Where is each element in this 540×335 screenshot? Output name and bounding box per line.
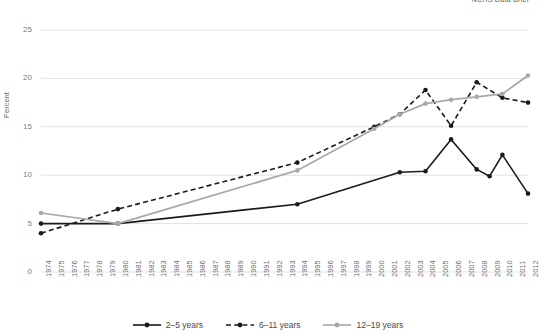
data-point-marker bbox=[39, 231, 44, 236]
legend-line-swatch-icon bbox=[132, 320, 162, 330]
data-point-marker bbox=[526, 100, 531, 105]
legend-item-label: 6–11 years bbox=[259, 320, 300, 330]
x-axis-tick-label: 1974 bbox=[44, 260, 53, 277]
x-axis-tick-label: 1992 bbox=[275, 260, 284, 277]
x-axis-tick-label: 2002 bbox=[403, 260, 412, 277]
data-point-marker bbox=[423, 101, 428, 106]
x-axis-tick-label: 1986 bbox=[198, 260, 207, 277]
data-point-marker bbox=[39, 211, 44, 216]
x-axis-tick-label: 1995 bbox=[313, 260, 322, 277]
series-line bbox=[41, 76, 528, 224]
x-axis-tick-label: 1988 bbox=[223, 260, 232, 277]
x-axis-tick-label: 1976 bbox=[70, 260, 79, 277]
x-axis-tick-label: 1998 bbox=[352, 260, 361, 277]
data-point-marker bbox=[449, 137, 454, 142]
x-axis-tick-label: 1999 bbox=[364, 260, 373, 277]
data-point-marker bbox=[423, 88, 428, 93]
data-point-marker bbox=[500, 92, 505, 97]
data-point-marker bbox=[398, 112, 403, 117]
data-point-marker bbox=[295, 160, 300, 165]
x-axis-tick-label: 1978 bbox=[95, 260, 104, 277]
x-axis-tick-label: 1989 bbox=[236, 260, 245, 277]
x-axis-tick-label: 1991 bbox=[262, 260, 271, 277]
x-axis-tick-label: 1981 bbox=[134, 260, 143, 277]
x-axis-tick-label: 2000 bbox=[377, 260, 386, 277]
data-point-marker bbox=[423, 169, 428, 174]
legend-line-swatch-icon bbox=[322, 320, 352, 330]
x-axis-tick-label: 1994 bbox=[300, 260, 309, 277]
x-axis-tick-label: 1982 bbox=[147, 260, 156, 277]
data-point-marker bbox=[116, 207, 121, 212]
x-axis-tick-label: 1997 bbox=[339, 260, 348, 277]
data-point-marker bbox=[295, 202, 300, 207]
x-axis-tick-label: 2005 bbox=[441, 260, 450, 277]
x-axis-tick-label: 2006 bbox=[454, 260, 463, 277]
data-point-marker bbox=[116, 221, 121, 226]
data-point-marker bbox=[398, 170, 403, 175]
legend-item[interactable]: 2–5 years bbox=[132, 320, 203, 330]
x-axis-tick-label: 2001 bbox=[390, 260, 399, 277]
data-point-marker bbox=[487, 174, 492, 179]
chart-legend: 2–5 years6–11 years12–19 years bbox=[0, 320, 535, 330]
x-axis-tick-label: 1975 bbox=[57, 260, 66, 277]
x-axis-tick-label: 2010 bbox=[505, 260, 514, 277]
x-axis-tick-label: 2003 bbox=[416, 260, 425, 277]
data-point-marker bbox=[449, 97, 454, 102]
data-point-marker bbox=[474, 80, 479, 85]
x-axis-tick-label: 2011 bbox=[518, 261, 527, 277]
x-axis-tick-label: 2008 bbox=[480, 260, 489, 277]
data-point-marker bbox=[526, 73, 531, 78]
data-point-marker bbox=[449, 124, 454, 129]
x-axis-tick-label: 1996 bbox=[326, 260, 335, 277]
x-axis-tick-label: 1983 bbox=[159, 260, 168, 277]
x-axis-tick-label: 1977 bbox=[82, 260, 91, 277]
data-point-marker bbox=[474, 95, 479, 100]
x-axis-tick-label: 1985 bbox=[185, 260, 194, 277]
x-axis-tick-label: 2012 bbox=[531, 260, 540, 277]
legend-item[interactable]: 12–19 years bbox=[322, 320, 403, 330]
x-axis-tick-label: 1993 bbox=[288, 260, 297, 277]
data-point-marker bbox=[295, 168, 300, 173]
data-point-marker bbox=[474, 167, 479, 172]
series-line bbox=[41, 82, 528, 233]
legend-item-label: 12–19 years bbox=[356, 320, 403, 330]
data-point-marker bbox=[500, 153, 505, 158]
data-point-marker bbox=[39, 221, 44, 226]
x-axis-tick-label: 1980 bbox=[121, 260, 130, 277]
legend-item[interactable]: 6–11 years bbox=[225, 320, 300, 330]
x-axis-tick-label: 1984 bbox=[172, 260, 181, 277]
data-point-marker bbox=[372, 126, 377, 131]
x-axis-tick-label: 2009 bbox=[493, 260, 502, 277]
x-axis-tick-label: 1987 bbox=[211, 260, 220, 277]
x-axis-tick-label: 1990 bbox=[249, 260, 258, 277]
x-axis-tick-label: 2004 bbox=[428, 260, 437, 277]
x-axis-tick-label: 1979 bbox=[108, 260, 117, 277]
legend-item-label: 2–5 years bbox=[166, 320, 203, 330]
data-point-marker bbox=[526, 191, 531, 196]
x-axis-tick-label: 2007 bbox=[467, 260, 476, 277]
legend-line-swatch-icon bbox=[225, 320, 255, 330]
